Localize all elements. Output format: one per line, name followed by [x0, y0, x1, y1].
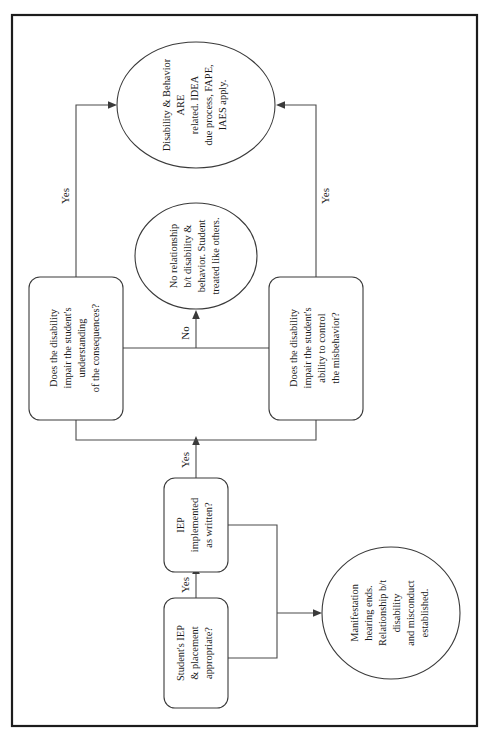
no-relationship-line-2: behavior. Student	[196, 220, 207, 293]
edge-label-no: No	[179, 326, 191, 340]
node-impair-control[interactable]: Does the disability impair the student's…	[269, 277, 363, 420]
edge-understanding-to-are-related	[76, 105, 110, 277]
impair-understanding-line-3: of the consequences?	[90, 303, 101, 392]
student-iep-line-0: Student's IEP	[175, 625, 186, 681]
no-relationship-line-0: No relationship	[168, 224, 179, 288]
impair-control-line-2: ability to control	[316, 313, 327, 382]
student-iep-text-group: Student's IEP & placement appropriate?	[175, 625, 214, 681]
are-related-line-1: ARE	[175, 95, 186, 116]
flowchart-canvas: Disability & Behavior ARE related. IDEA …	[0, 0, 489, 737]
node-impair-understanding[interactable]: Does the disability impair the student's…	[29, 277, 123, 420]
edge-label-yes-iep-implemented: Yes	[179, 452, 191, 468]
no-relationship-line-3: treated like others.	[210, 217, 221, 294]
are-related-line-2: related. IDEA	[189, 75, 200, 134]
hearing-ends-line-2: Relationship b/t	[377, 580, 388, 646]
hearing-ends-line-4: and misconduct	[405, 580, 416, 646]
impair-understanding-line-0: Does the disability	[48, 308, 59, 387]
iep-implemented-line-0: IEP	[175, 517, 186, 533]
edge-iep-implemented-to-hearing	[228, 525, 277, 613]
arrowhead-to-hearing	[313, 609, 322, 617]
hearing-ends-line-5: established.	[419, 589, 430, 638]
are-related-line-4: IAES apply.	[217, 80, 228, 131]
hearing-ends-line-1: hearing ends.	[363, 585, 374, 640]
iep-implemented-line-1: implemented	[189, 497, 200, 552]
edge-label-yes-student-iep: Yes	[179, 577, 191, 593]
node-hearing-ends[interactable]: Manifestation hearing ends. Relationship…	[322, 547, 460, 679]
flowchart-page: Disability & Behavior ARE related. IDEA …	[0, 0, 489, 737]
node-are-related[interactable]: Disability & Behavior ARE related. IDEA …	[117, 42, 275, 168]
edge-label-yes-left: Yes	[59, 188, 71, 204]
impair-understanding-line-2: understanding	[76, 319, 87, 378]
impair-understanding-line-1: impair the student's	[62, 308, 73, 389]
iep-implemented-line-2: as written?	[203, 502, 214, 548]
student-iep-line-1: & placement	[189, 626, 200, 679]
impair-control-line-3: the misbehavior?	[330, 312, 341, 384]
hearing-ends-line-3: disability	[391, 593, 402, 632]
node-no-relationship[interactable]: No relationship b/t disability & behavio…	[135, 203, 257, 309]
arrowhead-left-to-are-related	[108, 101, 117, 109]
edge-control-to-are-related	[283, 105, 316, 277]
edge-label-yes-right: Yes	[319, 188, 331, 204]
are-related-line-0: Disability & Behavior	[161, 58, 172, 151]
hearing-ends-line-0: Manifestation	[349, 583, 360, 642]
no-relationship-line-1: b/t disability &	[182, 225, 193, 288]
student-iep-line-2: appropriate?	[203, 627, 214, 679]
node-student-iep[interactable]: Student's IEP & placement appropriate?	[164, 598, 228, 708]
impair-control-line-0: Does the disability	[288, 308, 299, 387]
impair-control-line-1: impair the student's	[302, 308, 313, 389]
arrowhead-right-to-are-related	[276, 101, 285, 109]
edge-student-iep-to-hearing	[228, 613, 277, 658]
node-iep-implemented[interactable]: IEP implemented as written?	[164, 478, 228, 572]
are-related-line-3: due process, FAPE,	[203, 64, 214, 145]
arrowhead-to-no-relationship	[192, 310, 200, 319]
